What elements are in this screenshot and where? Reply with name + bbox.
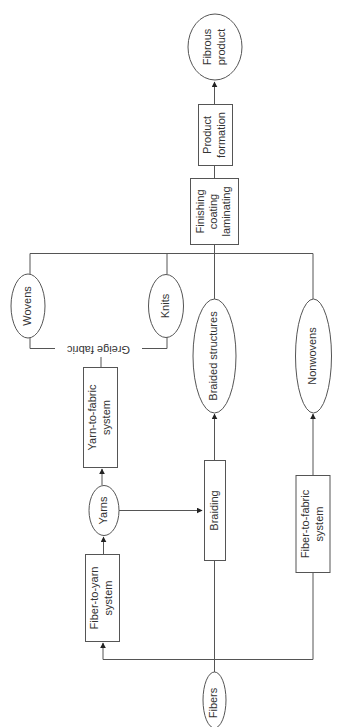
greige-bracket-left (30, 338, 55, 349)
fiber-to-fabric-label-1: Fiber-to-fabric (299, 489, 311, 558)
fiber-to-fabric-label-2: system (313, 507, 325, 542)
finishing-label-3: laminating (220, 186, 232, 236)
fibers-label: Fibers (207, 687, 219, 718)
node-yarn-to-fabric: Yarn-to-fabric system (84, 368, 118, 468)
braiding-label: Braiding (208, 490, 220, 530)
node-nonwovens: Nonwovens (296, 299, 332, 413)
node-braiding: Braiding (205, 461, 226, 561)
product-formation-label-1: Product (201, 116, 213, 154)
greige-bracket-right (142, 337, 167, 349)
fibrous-product-label-1: Fibrous (201, 28, 213, 65)
yarn-to-fabric-label-1: Yarn-to-fabric (86, 384, 98, 450)
node-fibers: Fibers (203, 672, 226, 727)
fiber-to-yarn-label-1: Fiber-to-yarn (88, 567, 100, 630)
yarns-label: Yarns (97, 496, 109, 524)
finishing-label-1: Finishing (194, 189, 206, 233)
node-greige-fabric: Greige fabric (67, 344, 130, 356)
yarn-to-fabric-label-2: system (100, 400, 112, 435)
greige-fabric-label: Greige fabric (67, 344, 130, 356)
wovens-label: Wovens (21, 286, 33, 326)
node-finishing: Finishing coating laminating (191, 179, 239, 245)
edges (30, 82, 313, 672)
fibrous-product-label-2: product (215, 29, 227, 66)
finishing-label-2: coating (207, 194, 219, 229)
node-knits: Knits (149, 275, 184, 338)
node-yarns: Yarns (89, 486, 119, 536)
fiber-to-yarn-label-2: system (102, 581, 114, 616)
braided-structures-label: Braided structures (207, 311, 219, 401)
node-wovens: Wovens (11, 274, 45, 338)
node-braided-structures: Braided structures (193, 299, 236, 413)
node-fibrous-product: Fibrous product (188, 14, 242, 80)
node-fiber-to-fabric: Fiber-to-fabric system (296, 476, 330, 573)
node-product-formation: Product formation (199, 105, 233, 166)
product-formation-label-2: formation (215, 112, 227, 158)
textile-process-flow-diagram: Fibrous product Product formation Finish… (0, 0, 342, 727)
knits-label: Knits (159, 293, 171, 318)
nonwovens-label: Nonwovens (306, 327, 318, 385)
node-fiber-to-yarn: Fiber-to-yarn system (86, 555, 120, 642)
